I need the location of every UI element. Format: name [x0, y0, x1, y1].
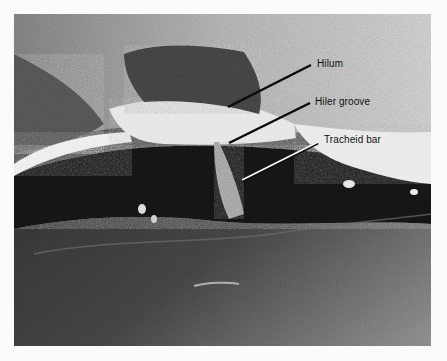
- leader-lines: [0, 0, 447, 361]
- hilum-leader-line: [228, 65, 311, 107]
- label-hiler-groove: Hiler groove: [315, 96, 370, 107]
- hiler-groove-leader-line: [229, 103, 310, 143]
- tracheid-bar-leader-line-outline: [242, 143, 318, 181]
- label-hilum: Hilum: [317, 58, 343, 69]
- tracheid-bar-leader-line: [242, 142, 318, 180]
- label-tracheid-bar: Tracheid bar: [324, 134, 381, 145]
